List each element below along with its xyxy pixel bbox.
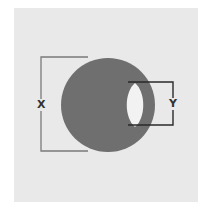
- y-label: Y: [168, 98, 178, 110]
- diagram-figure: [0, 0, 210, 214]
- x-label: X: [36, 99, 46, 111]
